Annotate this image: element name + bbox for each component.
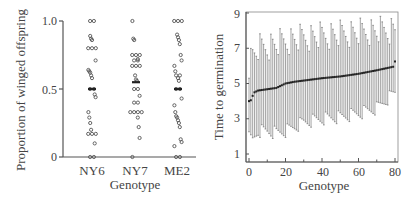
data-point [133, 59, 136, 62]
mean-point [383, 68, 385, 70]
mean-point [328, 77, 330, 79]
right-x-axis-label: Genotype [299, 178, 350, 193]
data-point [131, 19, 134, 22]
mean-point [350, 74, 352, 76]
left-tick-y-1: 1.0 [42, 14, 57, 28]
mean-point [394, 60, 396, 62]
mean-point [337, 76, 339, 78]
data-point [133, 87, 136, 90]
mean-point [392, 66, 394, 68]
mean-point [323, 77, 325, 79]
data-point [180, 59, 183, 62]
right-axes [246, 12, 398, 162]
data-point [176, 19, 179, 22]
data-point [140, 111, 143, 114]
mean-point [292, 81, 294, 83]
data-point [87, 132, 90, 135]
data-point [94, 47, 97, 50]
data-point [89, 19, 92, 22]
mean-point [316, 78, 318, 80]
right-mean-points [248, 60, 396, 102]
data-point [90, 128, 93, 131]
left-category-ny6: NY6 [79, 163, 105, 178]
mean-point [303, 80, 305, 82]
data-point [138, 64, 141, 67]
left-x-axis-label: Genotype [110, 177, 161, 192]
data-point [174, 70, 177, 73]
mean-point [354, 73, 356, 75]
mean-point [334, 76, 336, 78]
mean-point [389, 67, 391, 69]
left-chart-proportion-winged: Proportion of winged offspring 1.0 0.5 0… [0, 0, 210, 200]
mean-point [390, 66, 392, 68]
mean-point [312, 78, 314, 80]
data-point [90, 132, 93, 135]
mean-point [387, 67, 389, 69]
mean-point [359, 72, 361, 74]
right-tick-y-5: 5 [234, 76, 240, 90]
mean-point [274, 87, 276, 89]
mean-point [368, 71, 370, 73]
mean-point [248, 100, 250, 102]
mean-point [319, 77, 321, 79]
left-category-me2: ME2 [164, 163, 190, 178]
figure: Proportion of winged offspring 1.0 0.5 0… [0, 0, 415, 200]
mean-point [259, 89, 261, 91]
mean-point [299, 80, 301, 82]
mean-point [363, 72, 365, 74]
data-point [94, 59, 97, 62]
data-point [178, 125, 181, 128]
data-point [93, 142, 96, 145]
data-point [88, 116, 91, 119]
mean-point [361, 72, 363, 74]
mean-point [317, 78, 319, 80]
data-point [174, 111, 177, 114]
mean-point [345, 75, 347, 77]
left-category-ny7: NY7 [122, 163, 148, 178]
right-tick-y-3: 3 [234, 111, 240, 125]
data-point [133, 101, 136, 104]
data-point [131, 53, 134, 56]
mean-point [252, 95, 254, 97]
mean-point [279, 85, 281, 87]
data-point [90, 47, 93, 50]
mean-point [358, 73, 360, 75]
mean-point [268, 88, 270, 90]
mean-point [277, 86, 279, 88]
data-point [129, 111, 132, 114]
data-point [180, 19, 183, 22]
mean-point [348, 74, 350, 76]
mean-point [356, 73, 358, 75]
right-tick-x-80: 80 [389, 165, 401, 179]
mean-point [263, 89, 265, 91]
mean-point [261, 89, 263, 91]
mean-point [376, 69, 378, 71]
data-point [138, 136, 141, 139]
mean-point [297, 80, 299, 82]
right-tick-x-0: 0 [246, 165, 252, 179]
mean-point [321, 77, 323, 79]
mean-point [266, 88, 268, 90]
mean-point [270, 88, 272, 90]
mean-point [365, 71, 367, 73]
right-y-axis-label: Time to germination [211, 33, 226, 140]
mean-point [250, 99, 252, 101]
mean-point [372, 70, 374, 72]
left-tick-y-05: 0.5 [42, 83, 57, 97]
data-point [179, 53, 182, 56]
mean-point [290, 81, 292, 83]
mean-point [255, 90, 257, 92]
mean-point [378, 69, 380, 71]
mean-point [326, 77, 328, 79]
mean-point [288, 82, 290, 84]
mean-point [385, 67, 387, 69]
data-point [138, 94, 141, 97]
data-point [92, 19, 95, 22]
mean-point [308, 79, 310, 81]
mean-point [325, 77, 327, 79]
mean-point [264, 88, 266, 90]
right-plot-frame [246, 12, 398, 162]
left-data-points [87, 19, 184, 158]
data-point [134, 74, 137, 77]
mean-point [332, 76, 334, 78]
